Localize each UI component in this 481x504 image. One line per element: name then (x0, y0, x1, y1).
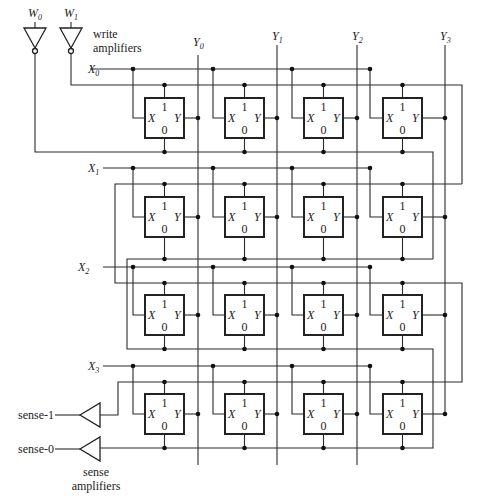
junction-dot (400, 83, 405, 88)
cell-pin-1: 1 (321, 297, 327, 311)
memory-cell-r0c3: 10XY (383, 98, 422, 138)
junction-dot (211, 265, 216, 270)
junction-dot (400, 347, 405, 352)
cell-pin-x: X (306, 407, 315, 421)
junction-dot (211, 166, 216, 171)
cell-pin-1: 1 (242, 396, 248, 410)
junction-dot (242, 257, 247, 262)
junction-dot (211, 67, 216, 72)
junction-dot (242, 446, 247, 451)
junction-dot (321, 380, 326, 385)
cell-pin-0: 0 (321, 123, 327, 137)
x-tap-r1c2 (292, 168, 304, 217)
write-amp-w1-label: W1 (64, 6, 78, 22)
cell-pin-x: X (147, 407, 156, 421)
memory-cell-r0c2: 10XY (304, 98, 343, 138)
x-tap-r1c0 (133, 168, 145, 217)
junction-dot (400, 182, 405, 187)
junction-dot (443, 215, 448, 220)
cell-pin-x: X (306, 111, 315, 125)
junction-dot (131, 166, 136, 171)
x-tap-r1c3 (370, 168, 383, 217)
cell-pin-x: X (306, 210, 315, 224)
junction-dot (162, 281, 167, 286)
column-label-y1: Y1 (272, 29, 283, 45)
cell-pin-0: 0 (162, 320, 168, 334)
cell-pin-x: X (227, 111, 236, 125)
memory-cell-r3c0: 10XY (145, 394, 184, 434)
write-amp-w1-triangle-icon (60, 28, 82, 48)
junction-dot (321, 182, 326, 187)
row-label-x1: X1 (87, 161, 99, 177)
junction-dot (242, 83, 247, 88)
cell-pin-1: 1 (242, 199, 248, 213)
junction-dot (211, 364, 216, 369)
junction-dot (368, 166, 373, 171)
x-tap-r0c3 (370, 69, 383, 118)
junction-dot (196, 313, 201, 318)
junction-dot (275, 412, 280, 417)
cell-pin-0: 0 (162, 419, 168, 433)
junction-dot (162, 380, 167, 385)
cell-pin-0: 0 (162, 123, 168, 137)
cell-pin-0: 0 (400, 222, 406, 236)
cell-pin-1: 1 (162, 396, 168, 410)
junction-dot (196, 412, 201, 417)
junction-dot (242, 281, 247, 286)
write-amp-w0-label: W0 (28, 6, 42, 22)
memory-cell-r2c2: 10XY (304, 295, 343, 335)
junction-dot (275, 313, 280, 318)
cell-pin-0: 0 (242, 222, 248, 236)
junction-dot (321, 150, 326, 155)
sense-0-label: sense-0 (18, 442, 54, 457)
junction-dot (196, 215, 201, 220)
sense-amp-label: sense amplifiers (68, 465, 124, 493)
sense-amp-label-line1: sense (68, 465, 124, 479)
column-label-y0: Y0 (193, 35, 204, 51)
junction-dot (368, 67, 373, 72)
cell-pin-x: X (385, 210, 394, 224)
cell-pin-1: 1 (162, 199, 168, 213)
memory-cell-r0c0: 10XY (145, 98, 184, 138)
junction-dot (290, 364, 295, 369)
cell-pin-1: 1 (400, 396, 406, 410)
cell-pin-x: X (385, 111, 394, 125)
sense-1-label: sense-1 (18, 408, 54, 423)
cell-pin-x: X (385, 407, 394, 421)
cell-pin-1: 1 (400, 199, 406, 213)
cell-pin-x: X (227, 210, 236, 224)
x-tap-r2c2 (292, 267, 304, 315)
write-amp-w1-bubble-icon (69, 49, 74, 54)
memory-array-diagram: 10XY10XY10XY10XY10XY10XY10XY10XY10XY10XY… (0, 0, 481, 504)
junction-dot (196, 116, 201, 121)
cell-pin-0: 0 (242, 419, 248, 433)
junction-dot (321, 281, 326, 286)
sense-amp-1-triangle-icon (80, 403, 100, 427)
x-tap-r2c3 (370, 267, 383, 315)
junction-dot (443, 116, 448, 121)
write-amp-label-line1: write (93, 27, 142, 41)
cell-pin-x: X (147, 308, 156, 322)
junction-dot (242, 182, 247, 187)
cell-pin-1: 1 (400, 297, 406, 311)
write-amp-label-line2: amplifiers (93, 41, 142, 55)
cell-pin-1: 1 (321, 199, 327, 213)
junction-dot (321, 347, 326, 352)
junction-dot (321, 257, 326, 262)
junction-dot (290, 166, 295, 171)
cell-pin-0: 0 (400, 123, 406, 137)
write-amp-w0-bubble-icon (33, 49, 38, 54)
cell-pin-1: 1 (162, 297, 168, 311)
memory-cell-r2c0: 10XY (145, 295, 184, 335)
junction-dot (355, 215, 360, 220)
memory-cell-r0c1: 10XY (225, 98, 264, 138)
column-label-y3: Y3 (440, 29, 451, 45)
junction-dot (242, 380, 247, 385)
x-tap-r2c1 (213, 267, 225, 315)
cell-pin-x: X (306, 308, 315, 322)
cell-pin-0: 0 (400, 320, 406, 334)
cell-pin-0: 0 (242, 320, 248, 334)
junction-dot (290, 67, 295, 72)
junction-dot (400, 150, 405, 155)
memory-cell-r1c2: 10XY (304, 197, 343, 237)
